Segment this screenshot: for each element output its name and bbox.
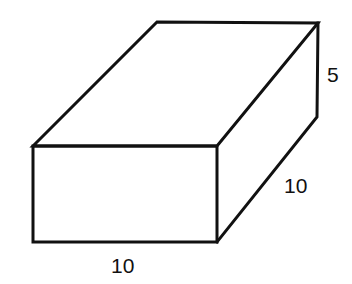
length-label: 10 — [111, 254, 134, 277]
box-diagram: 5 10 10 — [0, 0, 352, 284]
height-label: 5 — [327, 63, 339, 86]
depth-label: 10 — [284, 174, 307, 197]
top-face — [33, 22, 318, 146]
right-face — [217, 23, 318, 242]
front-face — [33, 146, 217, 242]
